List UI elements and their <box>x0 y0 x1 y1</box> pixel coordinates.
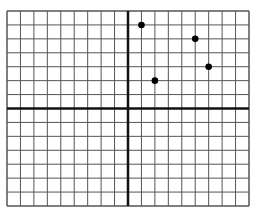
data-point <box>192 36 199 43</box>
data-point <box>205 63 212 70</box>
data-point <box>138 22 145 29</box>
axes <box>7 11 249 206</box>
coordinate-grid-chart <box>0 0 256 215</box>
data-point <box>152 77 159 84</box>
